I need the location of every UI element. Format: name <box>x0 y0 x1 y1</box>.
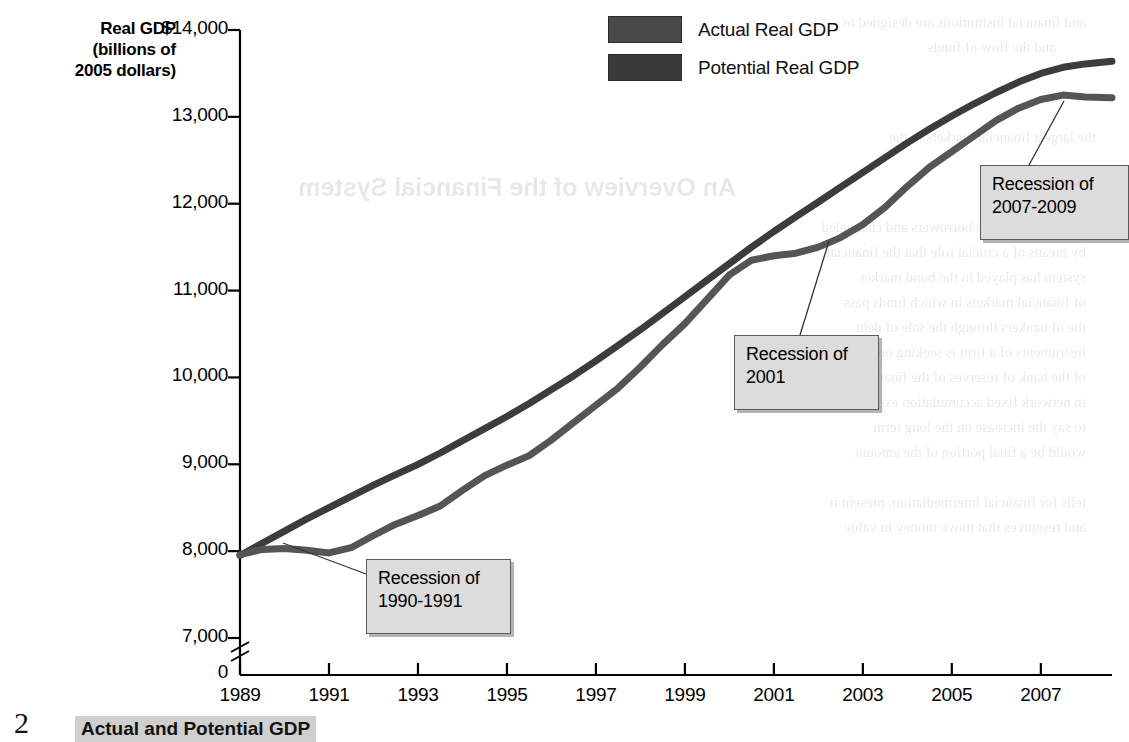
y-tick-label-9000: 9,000 <box>60 451 228 473</box>
x-tick-label-1989: 1989 <box>190 684 290 706</box>
x-tick-label-2007: 2007 <box>991 684 1091 706</box>
y-tick-label-11000: 11,000 <box>60 278 228 300</box>
callout-recession-2001: Recession of 2001 <box>734 335 879 410</box>
y-tick-label-8000: 8,000 <box>60 538 228 560</box>
x-tick-label-2005: 2005 <box>902 684 1002 706</box>
callout-recession-2007-2009: Recession of 2007-2009 <box>980 165 1129 240</box>
y-tick-label-12000: 12,000 <box>60 191 228 213</box>
x-tick-label-1991: 1991 <box>279 684 379 706</box>
y-tick-label-7000: 7,000 <box>60 625 228 647</box>
figure-caption: Actual and Potential GDP <box>75 716 316 742</box>
series-line-potential <box>240 61 1112 555</box>
x-tick-label-1997: 1997 <box>546 684 646 706</box>
x-tick-label-2001: 2001 <box>724 684 824 706</box>
callout-recession-1990-1991: Recession of 1990-1991 <box>366 559 511 634</box>
y-tick-label-zero: 0 <box>60 661 228 683</box>
y-tick-label-13000: 13,000 <box>60 104 228 126</box>
y-tick-label-14000: $14,000 <box>60 17 228 39</box>
x-axis-ticks <box>240 663 1041 675</box>
x-tick-label-1999: 1999 <box>635 684 735 706</box>
figure-number: 2 <box>14 706 29 740</box>
y-axis-ticks <box>228 30 240 638</box>
leader-line-recession-2007-2009 <box>1029 101 1064 165</box>
x-tick-label-1993: 1993 <box>368 684 468 706</box>
y-tick-label-10000: 10,000 <box>60 364 228 386</box>
leader-line-recession-2001 <box>800 241 829 335</box>
x-tick-label-2003: 2003 <box>813 684 913 706</box>
x-tick-label-1995: 1995 <box>457 684 557 706</box>
